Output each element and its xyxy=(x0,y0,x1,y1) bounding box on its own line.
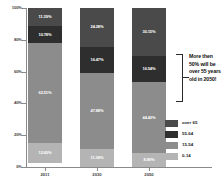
x-tick-2050 xyxy=(149,167,150,171)
bar-segment: 62.51% xyxy=(28,43,62,142)
legend-label-over-65: over 65 xyxy=(182,121,197,125)
bar-segment-label: 16.54% xyxy=(143,67,156,71)
legend-item-15-54[interactable]: 15-54 xyxy=(165,140,221,151)
bar-segment-label: 16.47% xyxy=(91,58,104,62)
bar-segment: 47.88% xyxy=(80,73,114,149)
x-axis-label-2011: 2011 xyxy=(25,173,65,177)
bar-segment: 30.15% xyxy=(132,8,166,56)
bar-segment: 16.47% xyxy=(80,47,114,73)
legend-swatch-15-54 xyxy=(165,142,178,149)
x-axis-label-2050: 2050 xyxy=(129,173,169,177)
bar-segment-label: 11.39% xyxy=(39,15,52,19)
y-axis-label-80: 80% xyxy=(0,38,22,42)
x-tick-2011 xyxy=(45,167,46,171)
legend-swatch-over-65 xyxy=(165,120,178,127)
stacked-bar-chart: 100% 80% 60% 40% 20% 0% 2011 2030 2050 1… xyxy=(0,0,222,183)
legend-label-55-64: 55-64 xyxy=(182,132,193,136)
bar-2030: 24.28%16.47%47.88%11.38% xyxy=(80,8,114,167)
bar-segment: 11.38% xyxy=(80,149,114,167)
legend-item-55-64[interactable]: 55-64 xyxy=(165,129,221,140)
bar-segment: 12.60% xyxy=(28,143,62,163)
legend-label-0-14: 0-14 xyxy=(182,154,191,158)
y-tick-80 xyxy=(22,40,27,41)
bar-segment-label: 24.28% xyxy=(91,25,104,29)
x-axis-line xyxy=(26,167,212,168)
bar-segment-label: 62.51% xyxy=(39,91,52,95)
legend-swatch-0-14 xyxy=(165,153,178,160)
y-axis-label-60: 60% xyxy=(0,70,22,74)
y-axis-line xyxy=(26,8,27,167)
bar-segment-label: 30.15% xyxy=(143,30,156,34)
legend-item-0-14[interactable]: 0-14 xyxy=(165,151,221,162)
bar-segment-label: 11.38% xyxy=(91,156,104,160)
bar-segment-label: 8.89% xyxy=(144,158,155,162)
bar-segment-label: 44.42% xyxy=(143,116,156,120)
bar-segment: 24.28% xyxy=(80,8,114,47)
bar-segment-label: 47.88% xyxy=(91,109,104,113)
bar-2011: 11.39%10.78%62.51%12.60% xyxy=(28,8,62,167)
y-tick-40 xyxy=(22,103,27,104)
legend-label-15-54: 15-54 xyxy=(182,143,193,147)
annotation-bracket xyxy=(176,54,183,102)
y-tick-100 xyxy=(22,8,27,9)
bar-segment-label: 10.78% xyxy=(39,33,52,37)
y-axis-label-20: 20% xyxy=(0,133,22,137)
legend-item-over-65[interactable]: over 65 xyxy=(165,118,221,129)
x-axis-label-2030: 2030 xyxy=(77,173,117,177)
y-tick-60 xyxy=(22,72,27,73)
x-tick-2030 xyxy=(97,167,98,171)
y-axis-label-0: 0% xyxy=(0,165,22,169)
y-tick-20 xyxy=(22,135,27,136)
chart-legend: over 65 55-64 15-54 0-14 xyxy=(165,118,221,162)
legend-swatch-55-64 xyxy=(165,131,178,138)
y-tick-0 xyxy=(22,167,27,168)
y-axis-label-40: 40% xyxy=(0,101,22,105)
annotation-text: More then 50% will be over 55 years old … xyxy=(189,53,222,83)
bar-segment: 8.89% xyxy=(132,153,166,167)
bar-segment: 10.78% xyxy=(28,26,62,43)
bar-segment: 44.42% xyxy=(132,82,166,153)
bar-2050: 30.15%16.54%44.42%8.89% xyxy=(132,8,166,167)
bar-segment: 16.54% xyxy=(132,56,166,82)
bar-segment: 11.39% xyxy=(28,8,62,26)
bar-segment-label: 12.60% xyxy=(39,151,52,155)
y-axis-label-100: 100% xyxy=(0,6,22,10)
